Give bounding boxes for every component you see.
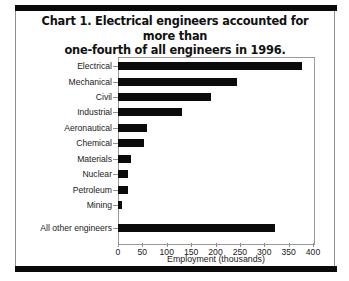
bar-row: All other engineers (20, 221, 313, 236)
bar (118, 201, 122, 209)
bar-row: Mining (20, 198, 313, 213)
bar-row: Mechanical (20, 75, 313, 90)
bar (118, 155, 131, 163)
bar-track (118, 152, 313, 167)
bar-track (118, 75, 313, 90)
bar-rows: ElectricalMechanicalCivilIndustrialAeron… (20, 57, 313, 243)
bar-row: Electrical (20, 59, 313, 74)
chart-title-line-1: Chart 1. Electrical engineers accounted … (42, 14, 309, 43)
category-label: Mining (20, 198, 112, 213)
chart-figure: Chart 1. Electrical engineers accounted … (0, 0, 349, 281)
bar-row: Aeronautical (20, 121, 313, 136)
bar-row: Chemical (20, 136, 313, 151)
bar-track (118, 121, 313, 136)
bar-track (118, 105, 313, 120)
category-label: Materials (20, 152, 112, 167)
bar (118, 78, 237, 86)
bar (118, 170, 128, 178)
category-label: Civil (20, 90, 112, 105)
bottom-rule (15, 266, 337, 272)
bar-track (118, 90, 313, 105)
bar-track (118, 136, 313, 151)
category-label: Petroleum (20, 183, 112, 198)
bar-track (118, 183, 313, 198)
chart-title: Chart 1. Electrical engineers accounted … (24, 14, 326, 58)
category-label: Electrical (20, 59, 112, 74)
bar (118, 108, 182, 116)
bar-track (118, 167, 313, 182)
category-label: Nuclear (20, 167, 112, 182)
x-axis-title: Employment (thousands) (118, 254, 314, 264)
bar-track (118, 221, 313, 236)
bar (118, 186, 128, 194)
bar-track (118, 198, 313, 213)
bar (118, 124, 147, 132)
bar (118, 224, 275, 232)
chart-title-line-2: one-fourth of all engineers in 1996. (24, 43, 326, 58)
bar-row: Nuclear (20, 167, 313, 182)
bar (118, 62, 302, 70)
category-label: Aeronautical (20, 121, 112, 136)
bar (118, 93, 211, 101)
category-label: Chemical (20, 136, 112, 151)
bar (118, 139, 144, 147)
category-label: Mechanical (20, 75, 112, 90)
bar-row: Petroleum (20, 183, 313, 198)
bar-row: Materials (20, 152, 313, 167)
category-label: Industrial (20, 105, 112, 120)
category-label: All other engineers (20, 221, 112, 236)
bar-row: Industrial (20, 105, 313, 120)
bar-row: Civil (20, 90, 313, 105)
bar-track (118, 59, 313, 74)
